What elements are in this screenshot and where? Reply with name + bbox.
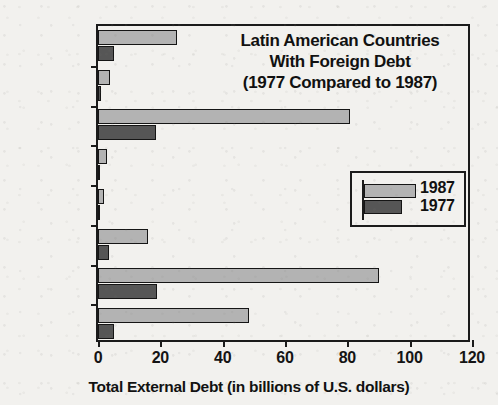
x-axis-tick-label: 40 [214,349,231,367]
x-axis-tick-label: 60 [276,349,293,367]
bar-1977-mexico [98,125,156,140]
x-axis-tick [160,340,162,347]
y-axis-tick [91,304,98,306]
bar-1987-chile [98,229,148,244]
x-axis-tick-label: 80 [339,349,356,367]
x-axis-tick-label: 0 [94,349,103,367]
y-axis-tick [91,265,98,267]
bar-1977-venezuela [98,46,114,61]
bar-1987-guatemala [98,189,104,204]
bar-1977-argentina [98,324,114,339]
bar-1987-brazil [98,268,379,283]
y-axis-tick [91,66,98,68]
chart-legend: 1987 1977 [350,171,466,227]
chart-title: Latin American Countries With Foreign De… [206,30,474,93]
bar-1977-jamaica [98,86,101,101]
bar-1987-mexico [98,109,350,124]
bar-1977-guatemala [98,205,100,220]
legend-swatch-1987 [364,184,416,198]
bar-1977-brazil [98,284,157,299]
legend-swatch-1977 [364,200,402,214]
x-axis-tick-label: 100 [397,349,423,367]
y-axis-tick [91,145,98,147]
x-axis-tick-label: 20 [152,349,169,367]
legend-label-1977: 1977 [420,197,455,215]
bar-1987-venezuela [98,30,177,45]
y-axis-tick [91,225,98,227]
bar-1977-chile [98,245,109,260]
x-axis-tick [472,340,474,347]
bar-1987-jamaica [98,70,110,85]
y-axis-tick [91,106,98,108]
bar-1987-honduras [98,149,107,164]
chart-title-line-3: (1977 Compared to 1987) [206,72,474,93]
y-axis-tick [91,185,98,187]
bar-1987-argentina [98,308,249,323]
x-axis-tick [285,340,287,347]
legend-label-1987: 1987 [420,179,455,197]
x-axis-title: Total External Debt (in billions of U.S.… [0,378,498,396]
bar-1977-honduras [98,165,100,180]
chart-title-line-2: With Foreign Debt [206,51,474,72]
x-axis-tick [98,340,100,347]
x-axis-tick [347,340,349,347]
x-axis-tick-label: 120 [459,349,485,367]
x-axis-tick [223,340,225,347]
x-axis-tick [410,340,412,347]
chart-title-line-1: Latin American Countries [206,30,474,51]
